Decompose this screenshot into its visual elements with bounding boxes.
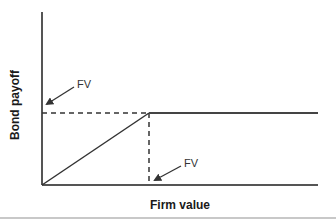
fv-lower-label: FV bbox=[184, 157, 199, 169]
payoff-diagonal-segment bbox=[42, 113, 149, 185]
x-axis-label: Firm value bbox=[150, 198, 210, 212]
y-axis-label: Bond payoff bbox=[8, 69, 22, 140]
bond-payoff-diagram: FV FV Bond payoff Firm value bbox=[0, 0, 336, 221]
fv-lower-arrow-icon bbox=[155, 166, 181, 180]
fv-upper-arrow-icon bbox=[47, 87, 74, 104]
fv-upper-label: FV bbox=[77, 78, 92, 90]
bottom-divider bbox=[0, 217, 336, 219]
